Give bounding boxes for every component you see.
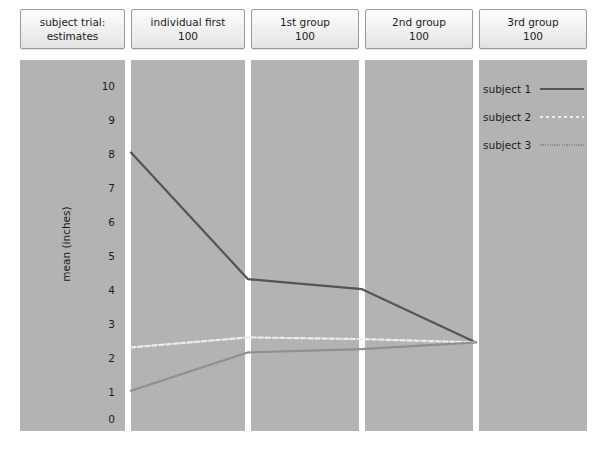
strip-header-line2: 100 <box>523 29 543 43</box>
y-axis-label: mean (inches) <box>60 204 72 284</box>
legend: subject 1 subject 2 subject 3 <box>483 78 583 162</box>
strip-header-individual-first: individual first 100 <box>131 9 245 49</box>
y-tick-9: 9 <box>85 115 115 126</box>
strip-header-subject-trial: subject trial: estimates <box>20 9 125 49</box>
legend-label-subject-2: subject 2 <box>483 111 538 123</box>
strip-header-line1: subject trial: <box>40 15 106 29</box>
strip-header-line2: 100 <box>409 29 429 43</box>
strip-header-line1: 3rd group <box>507 15 558 29</box>
strip-header-line2: estimates <box>47 29 99 43</box>
legend-label-subject-1: subject 1 <box>483 83 538 95</box>
strip-header-2nd-group: 2nd group 100 <box>365 9 473 49</box>
legend-item-subject-3: subject 3 <box>483 134 583 156</box>
y-tick-6: 6 <box>85 217 115 228</box>
strip-header-line1: 2nd group <box>392 15 446 29</box>
strip-header-line1: 1st group <box>280 15 330 29</box>
y-tick-7: 7 <box>85 183 115 194</box>
y-tick-5: 5 <box>85 251 115 262</box>
strip-header-line2: 100 <box>178 29 198 43</box>
y-tick-4: 4 <box>85 285 115 296</box>
y-tick-0: 0 <box>85 414 115 425</box>
panel-1st-group <box>251 60 359 431</box>
panel-individual-first <box>131 60 245 431</box>
solid-line-key <box>540 84 583 94</box>
y-tick-3: 3 <box>85 319 115 330</box>
dotted-line-key <box>540 140 583 150</box>
y-tick-10: 10 <box>85 81 115 92</box>
chart-root: subject trial: estimates individual firs… <box>0 0 606 450</box>
legend-item-subject-2: subject 2 <box>483 106 583 128</box>
strip-header-1st-group: 1st group 100 <box>251 9 359 49</box>
strip-header-line2: 100 <box>295 29 315 43</box>
y-tick-2: 2 <box>85 353 115 364</box>
y-tick-1: 1 <box>85 387 115 398</box>
legend-item-subject-1: subject 1 <box>483 78 583 100</box>
y-tick-8: 8 <box>85 149 115 160</box>
panel-2nd-group <box>365 60 473 431</box>
dashed-line-key <box>540 112 583 122</box>
strip-header-3rd-group: 3rd group 100 <box>479 9 587 49</box>
legend-label-subject-3: subject 3 <box>483 139 538 151</box>
strip-header-line1: individual first <box>151 15 226 29</box>
